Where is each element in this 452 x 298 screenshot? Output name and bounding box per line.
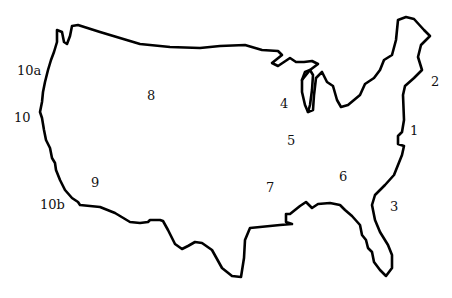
map-label-7: 7 bbox=[266, 181, 274, 194]
map-label-8: 8 bbox=[147, 89, 155, 102]
map-label-2: 2 bbox=[431, 75, 439, 88]
map-label-6: 6 bbox=[339, 170, 347, 183]
map-label-1: 1 bbox=[410, 124, 418, 137]
map-label-4: 4 bbox=[280, 97, 288, 110]
map-label-3: 3 bbox=[390, 200, 398, 213]
map-label-10b: 10b bbox=[40, 198, 65, 211]
map-label-5: 5 bbox=[287, 134, 295, 147]
map-label-9: 9 bbox=[91, 176, 99, 189]
us-outline-map bbox=[0, 0, 452, 298]
lake-michigan-outline bbox=[302, 70, 313, 112]
map-label-10: 10 bbox=[14, 111, 31, 124]
us-border-outline bbox=[40, 17, 430, 277]
map-label-10a: 10a bbox=[17, 64, 41, 77]
